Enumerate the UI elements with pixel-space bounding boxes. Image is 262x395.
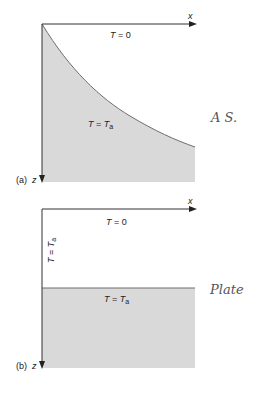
panel-a: x T = 0 T = Ta (a) z A S.	[16, 11, 237, 185]
panel-a-x-label: x	[187, 11, 193, 21]
panel-b-upper-label: T = 0	[106, 217, 127, 227]
panel-a-x-arrow-icon	[189, 21, 197, 27]
panel-a-upper-label: T = 0	[110, 30, 131, 40]
panel-b-z-label: z	[31, 361, 37, 371]
panel-a-caption: (a)	[16, 175, 27, 185]
panel-b-handwritten-annotation: Plate	[209, 282, 244, 297]
panel-a-shaded-region	[42, 24, 195, 182]
panel-b-caption: (b)	[16, 361, 27, 371]
panel-b: x T = 0 T = Ta T = Ta (b) z Plate	[16, 196, 244, 371]
panel-b-x-label: x	[187, 196, 193, 206]
diagram-canvas: x T = 0 T = Ta (a) z A S. x T = 0 T	[0, 0, 262, 395]
panel-b-side-label: T = Ta	[46, 238, 57, 263]
panel-b-x-arrow-icon	[189, 206, 197, 212]
panel-a-z-label: z	[31, 175, 37, 185]
panel-a-handwritten-annotation: A S.	[210, 110, 237, 125]
